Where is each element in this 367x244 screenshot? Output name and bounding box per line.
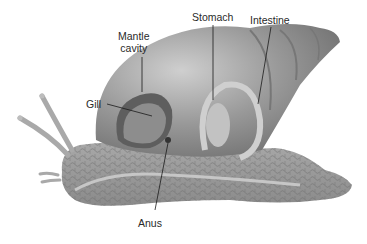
- label-intestine: Intestine: [250, 14, 290, 26]
- label-mantle-cavity: Mantle cavity: [118, 30, 150, 54]
- label-mantle-line2: cavity: [118, 42, 150, 54]
- snail-illustration: [0, 0, 367, 244]
- label-mantle-line1: Mantle: [118, 30, 150, 42]
- label-gill: Gill: [86, 98, 101, 110]
- label-anus: Anus: [138, 217, 162, 229]
- label-stomach: Stomach: [192, 11, 233, 23]
- snail-diagram: Mantle cavity Stomach Intestine Gill Anu…: [0, 0, 367, 244]
